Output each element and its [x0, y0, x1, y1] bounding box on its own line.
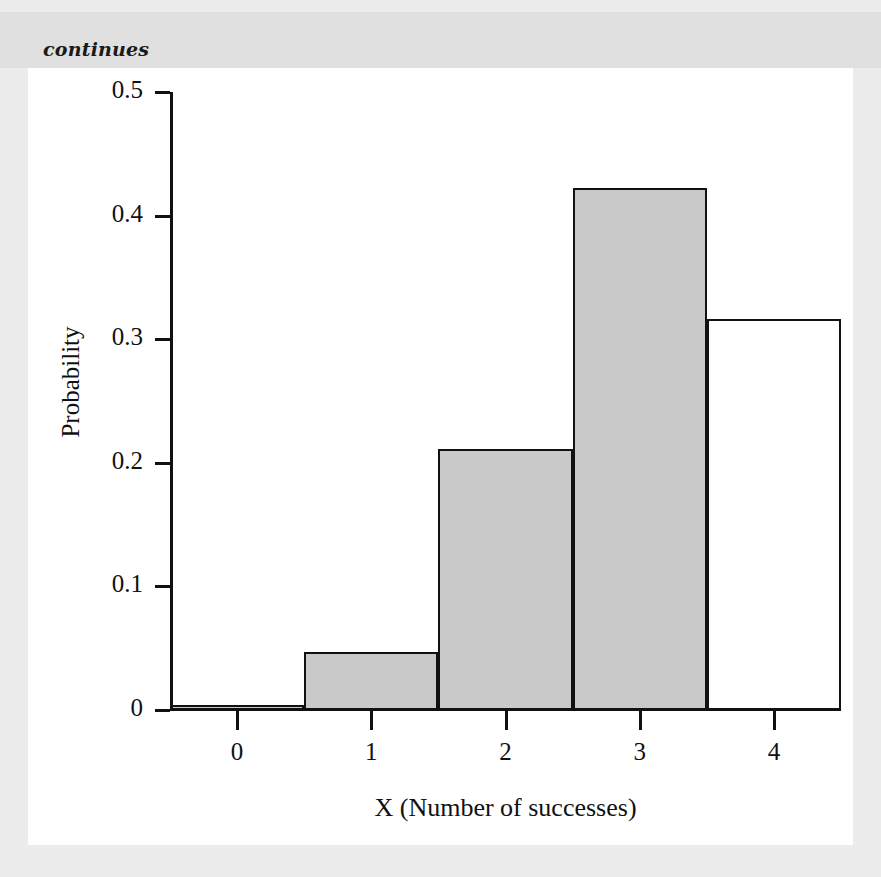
x-axis-tick-label: 0: [212, 738, 262, 766]
histogram-bar: [438, 449, 572, 710]
y-axis-title: Probability: [57, 282, 85, 482]
y-axis-tick: [155, 709, 170, 712]
x-axis-tick: [236, 711, 239, 730]
x-axis-title: X (Number of successes): [170, 793, 841, 823]
x-axis-tick-label: 1: [346, 738, 396, 766]
page-root: continues 00.10.20.30.40.5 01234 Probabi…: [0, 0, 881, 877]
y-axis-tick: [155, 462, 170, 465]
histogram-bar: [573, 188, 707, 710]
x-axis-tick-label: 3: [615, 738, 665, 766]
x-axis-tick-label: 4: [749, 738, 799, 766]
x-axis-tick: [773, 711, 776, 730]
caption-band: continues: [0, 12, 881, 68]
y-axis-tick: [155, 585, 170, 588]
x-axis-tick: [370, 711, 373, 730]
y-axis-tick-label: 0.4: [73, 200, 143, 228]
y-axis-tick: [155, 91, 170, 94]
y-axis-tick-label: 0.1: [73, 570, 143, 598]
histogram-bar: [304, 652, 438, 710]
y-axis-tick: [155, 338, 170, 341]
figure-panel: 00.10.20.30.40.5 01234 Probability X (Nu…: [28, 68, 853, 845]
x-axis-tick: [639, 711, 642, 730]
continues-caption: continues: [43, 38, 149, 60]
histogram-plot: 00.10.20.30.40.5 01234 Probability X (Nu…: [28, 68, 853, 845]
x-axis-tick-label: 2: [481, 738, 531, 766]
y-axis-tick: [155, 215, 170, 218]
y-axis-tick-label: 0.5: [73, 76, 143, 104]
x-axis-tick: [505, 711, 508, 730]
histogram-bar: [707, 319, 841, 710]
y-axis-line: [170, 92, 173, 711]
y-axis-tick-label: 0: [73, 694, 143, 722]
